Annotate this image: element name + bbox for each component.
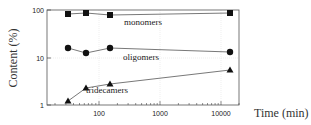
chart: 100 10 1 100 1000 10000 monom <box>0 0 311 125</box>
label-monomers: monomers <box>124 17 162 27</box>
y-tick-100: 100 <box>32 7 44 14</box>
x-axis <box>55 101 239 105</box>
x-axis-title: Time (min) <box>254 106 309 120</box>
y-axis-title: Content (%) <box>6 29 20 88</box>
label-oligomers: oligomers <box>123 52 159 62</box>
y-tick-1: 1 <box>40 102 44 109</box>
label-tridecamers: tridecamers <box>86 85 128 95</box>
x-tick-100: 100 <box>93 110 105 117</box>
y-axis <box>47 10 51 105</box>
x-tick-10000: 10000 <box>211 110 231 117</box>
x-tick-1000: 1000 <box>152 110 168 117</box>
y-tick-10: 10 <box>36 55 44 62</box>
